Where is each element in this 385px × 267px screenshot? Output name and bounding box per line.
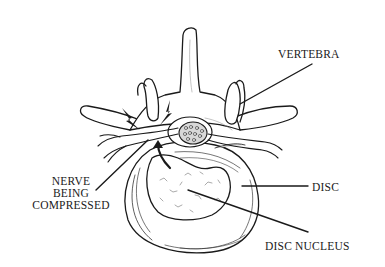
- disc-nucleus-label: DISC NUCLEUS: [265, 240, 350, 252]
- spinal-cord: [179, 122, 207, 144]
- vertebra-label: VERTEBRA: [278, 48, 340, 60]
- nerve-being-compressed-label: NERVE BEING COMPRESSED: [28, 175, 114, 211]
- spine-disc-illustration: [0, 0, 385, 267]
- disc-label: DISC: [312, 181, 339, 193]
- nerve-label-line-3: COMPRESSED: [28, 199, 114, 211]
- vertebra-leader: [240, 64, 312, 104]
- nerve-label-line-2: BEING: [28, 187, 114, 199]
- nerve-label-line-1: NERVE: [28, 175, 114, 187]
